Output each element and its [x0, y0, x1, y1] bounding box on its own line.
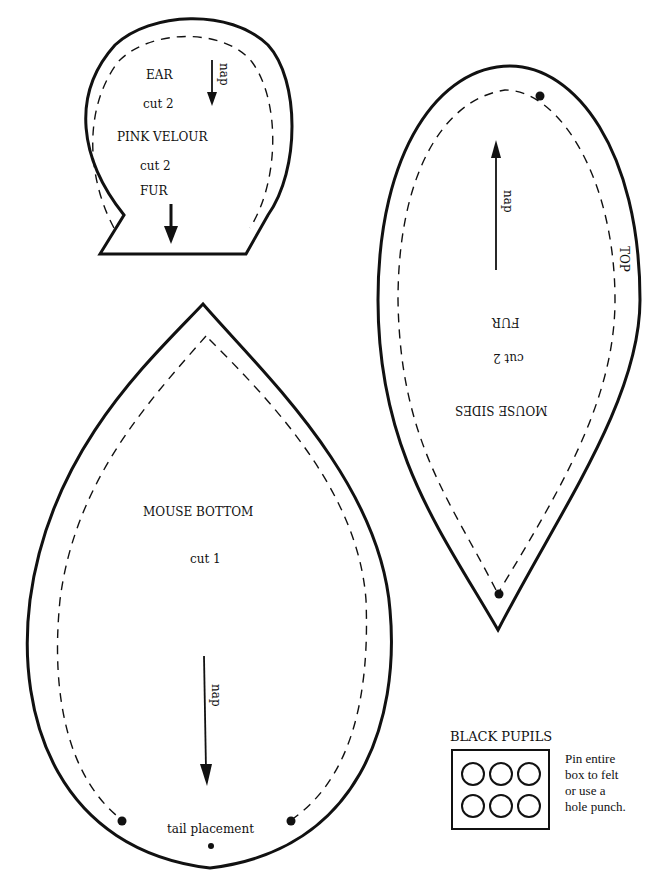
ear-material-cut-count: cut 2	[140, 160, 171, 172]
mouse-sides-piece	[378, 66, 640, 630]
ear-cut-count: cut 2	[143, 98, 174, 110]
mouse-bottom-title: MOUSE BOTTOM	[143, 506, 253, 518]
ear-material-fur: FUR	[140, 185, 167, 197]
mouse-sides-nap-label: nap	[502, 190, 514, 213]
black-pupils-title: BLACK PUPILS	[450, 730, 552, 743]
sewing-pattern-sheet: EAR cut 2 PINK VELOUR cut 2 FUR nap FUR …	[0, 0, 666, 887]
instruction-line: hole punch.	[565, 799, 626, 815]
tail-placement-label: tail placement	[167, 823, 254, 835]
instruction-line: Pin entire	[565, 751, 626, 767]
mouse-sides-cut-count: cut 2	[493, 352, 524, 364]
mouse-sides-top-label: TOP	[618, 246, 630, 272]
mouse-bottom-cut-count: cut 1	[190, 553, 221, 565]
ear-nap-label: nap	[218, 63, 230, 86]
mouse-bottom-piece	[27, 304, 391, 868]
mouse-sides-title: MOUSE SIDES	[455, 404, 548, 416]
mouse-bottom-nap-label: nap	[210, 684, 222, 707]
black-pupils-box	[452, 750, 549, 829]
ear-title: EAR	[146, 69, 172, 81]
black-pupils-instructions: Pin entire box to felt or use a hole pun…	[565, 751, 626, 815]
mouse-sides-material: FUR	[492, 316, 519, 328]
ear-material-pink-velour: PINK VELOUR	[117, 131, 207, 143]
instruction-line: box to felt	[565, 767, 626, 783]
instruction-line: or use a	[565, 783, 626, 799]
